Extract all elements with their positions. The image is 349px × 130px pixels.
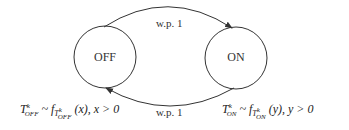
off-T-sub: OFF xyxy=(25,110,39,118)
off-dist: ~ f xyxy=(41,102,54,116)
on-duration-annotation: TkON ~ fTkON (y), y > 0 xyxy=(222,102,313,118)
on-dist-sub: TkON xyxy=(252,109,265,118)
on-T-sub: ON xyxy=(227,110,237,118)
off-T-sup: k xyxy=(27,102,30,110)
off-dist-sub: TkOFF xyxy=(54,109,71,118)
off-duration-annotation: TkOFF ~ fTkOFF (x), x > 0 xyxy=(20,102,119,118)
state-off-label: OFF xyxy=(75,50,135,65)
state-on-label: ON xyxy=(206,50,266,65)
transition-arrow-on-to-off xyxy=(106,88,234,106)
on-T-sup: k xyxy=(229,102,232,110)
off-rest: (x), x > 0 xyxy=(74,102,119,116)
transition-label-top: w.p. 1 xyxy=(156,17,182,29)
on-rest: (y), y > 0 xyxy=(269,102,314,116)
transition-label-bottom: w.p. 1 xyxy=(156,106,182,118)
on-dist: ~ f xyxy=(240,102,253,116)
